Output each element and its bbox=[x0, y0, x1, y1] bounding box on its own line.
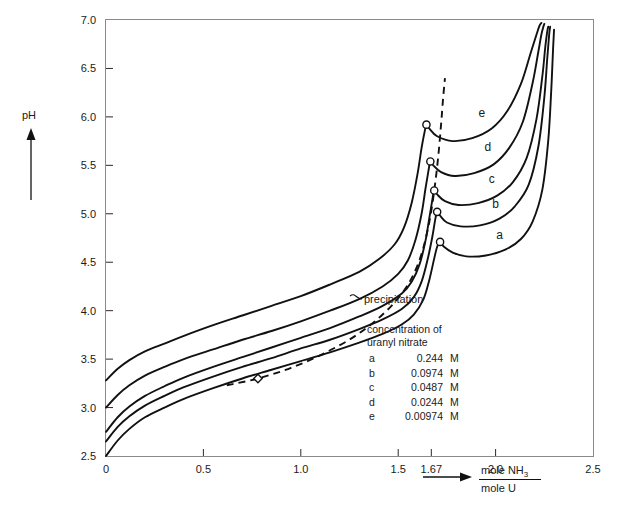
titration-curves bbox=[106, 23, 554, 456]
curve-label-c: c bbox=[489, 172, 495, 186]
legend-key-c: c bbox=[369, 381, 374, 393]
y-tick-label-3.0: 3.0 bbox=[81, 402, 96, 414]
x-tick-label-0.5: 0.5 bbox=[196, 463, 211, 475]
chart-canvas: 2.53.03.54.04.55.05.56.06.57.0 00.51.01.… bbox=[0, 0, 621, 518]
curve-label-a: a bbox=[496, 228, 503, 242]
y-tick-label-5.5: 5.5 bbox=[81, 159, 96, 171]
onset-marker-d bbox=[427, 158, 434, 165]
legend-value-e: 0.00974 bbox=[405, 410, 443, 422]
curve-label-b: b bbox=[492, 197, 499, 211]
x-tick-label-0: 0 bbox=[103, 463, 109, 475]
onset-marker-e bbox=[423, 121, 430, 128]
legend-value-c: 0.0487 bbox=[411, 381, 443, 393]
curve-c bbox=[106, 27, 548, 432]
precipitation-annotation-label: precipitation bbox=[364, 293, 423, 305]
legend-unit-c: M bbox=[450, 381, 459, 393]
legend-title-line1: concentration of bbox=[367, 323, 442, 335]
legend-unit-e: M bbox=[450, 410, 459, 422]
legend-value-b: 0.0974 bbox=[411, 367, 443, 379]
y-tick-label-4.5: 4.5 bbox=[81, 256, 96, 268]
x-tick-label-1.0: 1.0 bbox=[293, 463, 308, 475]
legend-rows: a0.244Mb0.0974Mc0.0487Md0.0244Me0.00974M bbox=[369, 352, 459, 422]
y-axis-tick-labels: 2.53.03.54.04.55.05.56.06.57.0 bbox=[81, 14, 96, 462]
x-tick-label-1.5: 1.5 bbox=[391, 463, 406, 475]
y-tick-label-6.5: 6.5 bbox=[81, 62, 96, 74]
legend-unit-a: M bbox=[450, 352, 459, 364]
y-tick-label-3.5: 3.5 bbox=[81, 353, 96, 365]
y-axis-ticks bbox=[106, 68, 113, 407]
x-axis-title-numerator: mole NH3 bbox=[481, 464, 529, 479]
curve-label-e: e bbox=[479, 106, 486, 120]
legend-unit-d: M bbox=[450, 396, 459, 408]
curve-b bbox=[106, 27, 550, 442]
y-axis-arrow-icon bbox=[27, 128, 36, 200]
x-tick-label-2.5: 2.5 bbox=[585, 463, 600, 475]
legend-title-line2: uranyl nitrate bbox=[367, 336, 428, 348]
precipitation-annotation: precipitation bbox=[350, 293, 423, 305]
y-tick-label-7.0: 7.0 bbox=[81, 14, 96, 26]
y-tick-label-4.0: 4.0 bbox=[81, 305, 96, 317]
y-tick-label-6.0: 6.0 bbox=[81, 111, 96, 123]
x-axis-ticks bbox=[203, 449, 495, 456]
legend-key-b: b bbox=[369, 367, 375, 379]
ph-titration-chart: 2.53.03.54.04.55.05.56.06.57.0 00.51.01.… bbox=[0, 0, 621, 518]
y-axis-title: pH bbox=[22, 109, 36, 121]
legend-key-a: a bbox=[369, 352, 375, 364]
onset-marker-a bbox=[436, 238, 443, 245]
x-axis-title-denominator: mole U bbox=[481, 482, 516, 494]
y-tick-label-5.0: 5.0 bbox=[81, 208, 96, 220]
x-tick-label-1.67: 1.67 bbox=[421, 463, 442, 475]
legend-key-d: d bbox=[369, 396, 375, 408]
legend: concentration of uranyl nitrate a0.244Mb… bbox=[367, 323, 459, 422]
legend-value-a: 0.244 bbox=[417, 352, 443, 364]
curve-e bbox=[106, 23, 541, 381]
legend-unit-b: M bbox=[450, 367, 459, 379]
onset-marker-b bbox=[434, 208, 441, 215]
curve-label-d: d bbox=[484, 140, 491, 154]
legend-key-e: e bbox=[369, 410, 375, 422]
onset-marker-c bbox=[431, 187, 438, 194]
curve-d bbox=[106, 24, 544, 408]
y-tick-label-2.5: 2.5 bbox=[81, 450, 96, 462]
x-axis-title: mole NH3 mole U bbox=[479, 464, 541, 494]
legend-value-d: 0.0244 bbox=[411, 396, 443, 408]
